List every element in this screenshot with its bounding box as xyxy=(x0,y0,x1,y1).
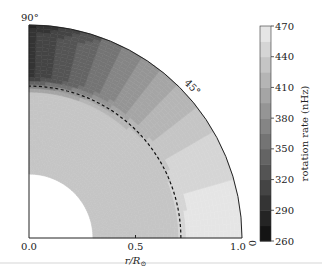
rotation-cell xyxy=(208,225,212,232)
rotation-cell xyxy=(29,118,33,122)
rotation-cell xyxy=(29,122,33,126)
rotation-cell xyxy=(156,229,160,234)
rotation-cell xyxy=(193,226,197,232)
rotation-cell xyxy=(190,232,194,238)
rotation-cell xyxy=(29,32,36,36)
x-tick-label: 1.0 xyxy=(230,241,246,252)
rotation-cell xyxy=(220,231,224,238)
rotation-cell xyxy=(35,59,41,63)
rotation-cell xyxy=(130,234,134,238)
rotation-cell xyxy=(35,55,42,59)
colorbar-swatch xyxy=(260,195,271,211)
rotation-cell xyxy=(126,234,130,238)
rotation-cell xyxy=(223,224,227,231)
rotation-cell xyxy=(37,118,41,122)
rotation-cell xyxy=(29,100,34,104)
rotation-cell xyxy=(193,232,197,238)
rotation-cell xyxy=(34,103,39,107)
rotation-cell xyxy=(35,74,41,78)
colorbar-swatch xyxy=(260,149,271,165)
colorbar-swatch xyxy=(260,180,271,196)
colorbar xyxy=(260,26,271,242)
rotation-cell xyxy=(29,70,35,74)
rotation-cell xyxy=(197,232,201,238)
rotation-cell xyxy=(216,231,220,238)
rotation-cell xyxy=(36,33,43,37)
rotation-cell xyxy=(35,51,42,55)
colorbar-swatch xyxy=(260,57,271,73)
rotation-cell xyxy=(33,129,37,133)
rotation-cell xyxy=(29,111,33,115)
colorbar-swatch xyxy=(260,87,271,103)
rotation-cell xyxy=(148,225,152,230)
rotation-cell xyxy=(29,59,35,63)
rotation-cell xyxy=(29,137,33,141)
rotation-cell xyxy=(145,234,149,238)
rotation-cell xyxy=(234,231,238,238)
rotation-cell xyxy=(33,126,37,130)
rotation-cell xyxy=(204,225,208,231)
rotation-cell xyxy=(36,36,43,40)
rotation-cell xyxy=(186,227,190,233)
x-tick-label: 0.0 xyxy=(21,241,37,252)
rotation-cell xyxy=(29,133,33,137)
rotation-cell xyxy=(205,232,209,238)
colorbar-tick-label: 410 xyxy=(275,82,294,93)
rotation-cell xyxy=(32,144,35,148)
rotation-cell xyxy=(29,81,34,85)
rotation-cell xyxy=(32,141,36,145)
rotation-cell xyxy=(167,233,171,238)
rotation-cell xyxy=(35,66,41,70)
rotation-cell xyxy=(29,126,33,130)
rotation-cell xyxy=(164,233,168,238)
colorbar-label: rotation rate (nHz) xyxy=(299,86,310,182)
colorbar-swatch xyxy=(260,72,271,88)
rotation-cell xyxy=(29,55,35,59)
rotation-cell xyxy=(145,230,149,234)
colorbar-swatch xyxy=(260,134,271,150)
rotation-cell xyxy=(36,133,40,137)
rotation-cell xyxy=(32,137,36,141)
rotation-cell xyxy=(212,231,216,238)
rotation-cell xyxy=(29,107,34,111)
rotation-cell xyxy=(186,232,190,238)
colorbar-swatch xyxy=(260,41,271,57)
rotation-cell xyxy=(36,137,40,141)
rotation-cell xyxy=(175,233,179,238)
rotation-cell xyxy=(171,233,175,238)
colorbar-tick-label: 290 xyxy=(275,205,294,216)
colorbar-swatch xyxy=(260,226,271,242)
colorbar-tick-label: 440 xyxy=(275,51,294,62)
rotation-cell xyxy=(36,130,40,134)
rotation-cell xyxy=(182,233,186,238)
colorbar-tick-label: 470 xyxy=(275,21,294,32)
x-axis-label: r/R⊙ xyxy=(125,255,147,268)
rotation-cell xyxy=(33,111,38,115)
rotation-cell xyxy=(36,47,43,51)
rotation-cell xyxy=(156,233,160,238)
rotation-cell xyxy=(34,88,39,92)
rotation-cell xyxy=(227,231,231,238)
rotation-cell xyxy=(223,231,227,238)
colorbar-tick-label: 380 xyxy=(275,113,294,124)
rotation-cell xyxy=(141,230,145,234)
rotation-cell xyxy=(227,224,231,231)
rotation-cell xyxy=(33,107,38,111)
rotation-cell xyxy=(160,229,164,234)
rotation-cell xyxy=(33,122,37,126)
rotation-cell xyxy=(219,224,223,231)
rotation-cell xyxy=(37,122,41,126)
rotation-cell xyxy=(29,92,34,96)
rotation-cell xyxy=(32,148,35,152)
rotation-cell xyxy=(29,40,36,44)
angle-label-90: 90° xyxy=(21,12,39,23)
x-tick-label: 0.5 xyxy=(128,241,144,252)
rotation-map xyxy=(29,25,242,238)
rotation-cell xyxy=(29,47,36,51)
rotation-cell xyxy=(35,70,41,74)
rotation-cell xyxy=(141,234,145,238)
rotation-cell xyxy=(34,77,40,81)
rotation-cell xyxy=(34,92,39,96)
colorbar-tick-label: 350 xyxy=(275,143,294,154)
angle-label-0: 0 xyxy=(247,240,258,246)
